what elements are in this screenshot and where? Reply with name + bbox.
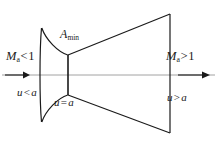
label-velocity-exit-value: a: [181, 91, 187, 103]
label-velocity-throat-value: a: [68, 96, 74, 108]
label-mach-exit-relation: >: [180, 49, 188, 63]
flow-arrow-right-exit-icon: [178, 72, 210, 79]
label-throat-area: Amin: [60, 28, 79, 42]
label-throat-area-subscript: min: [67, 33, 79, 42]
label-velocity-throat: u=a: [54, 97, 75, 108]
label-velocity-inlet-value: a: [31, 86, 37, 98]
label-mach-exit-value: 1: [188, 49, 194, 63]
label-mach-exit: Ma>1: [166, 50, 194, 64]
label-mach-inlet: Ma<1: [6, 50, 34, 64]
diverging-wall-upper: [68, 14, 170, 55]
label-velocity-inlet: u<a: [17, 87, 38, 98]
nozzle-geometry-svg: [0, 0, 217, 150]
nozzle-diagram: Ma<1 Ma>1 Amin u<a u=a u>a: [0, 0, 217, 150]
label-velocity-exit: u>a: [167, 92, 188, 103]
label-mach-exit-symbol: M: [166, 49, 177, 63]
label-mach-inlet-value: 1: [28, 49, 34, 63]
label-mach-inlet-symbol: M: [6, 49, 17, 63]
label-mach-inlet-relation: <: [20, 49, 28, 63]
diverging-wall-lower: [68, 95, 170, 133]
flow-arrow-right-inlet-icon: [5, 72, 30, 79]
